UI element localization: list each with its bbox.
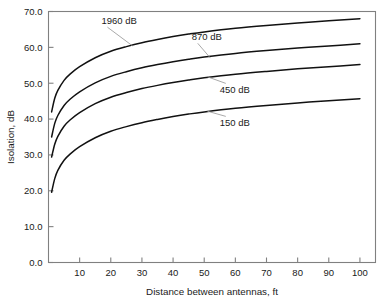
y-tick-label: 10.0: [24, 221, 43, 232]
series-label-150-db: 150 dB: [220, 117, 250, 128]
chart-canvas: 0.010.020.030.040.050.060.070.0102030405…: [0, 0, 387, 307]
x-tick-label: 80: [292, 267, 303, 278]
annotation-leader-line: [107, 27, 132, 46]
series-curve-450-db: [52, 65, 360, 158]
x-tick-label: 70: [261, 267, 272, 278]
x-tick-label: 50: [199, 267, 210, 278]
annotations-group: 1960 dB870 dB450 dB150 dB: [101, 15, 249, 128]
y-tick-label: 40.0: [24, 113, 43, 124]
x-tick-label: 30: [137, 267, 148, 278]
y-tick-label: 60.0: [24, 42, 43, 53]
series-curve-870-db: [52, 44, 360, 137]
series-label-870-db: 870 dB: [192, 31, 222, 42]
y-axis-title: Isolation, dB: [5, 110, 16, 164]
y-tick-label: 30.0: [24, 149, 43, 160]
y-tick-label: 0.0: [29, 257, 42, 268]
y-tick-label: 50.0: [24, 78, 43, 89]
y-tick-label: 20.0: [24, 185, 43, 196]
x-tick-label: 90: [323, 267, 334, 278]
x-axis-title: Distance between antennas, ft: [146, 286, 278, 297]
isolation-vs-distance-chart: 0.010.020.030.040.050.060.070.0102030405…: [0, 0, 387, 307]
series-group: [52, 19, 360, 193]
annotation-leader-line: [207, 77, 225, 84]
x-tick-label: 10: [74, 267, 85, 278]
annotation-leader-line: [198, 43, 211, 58]
series-label-1960-db: 1960 dB: [101, 15, 136, 26]
annotation-leader-line: [207, 111, 225, 116]
series-curve-150-db: [52, 99, 360, 193]
x-tick-label: 100: [352, 267, 368, 278]
y-axis: 0.010.020.030.040.050.060.070.0: [24, 6, 54, 268]
x-tick-label: 40: [168, 267, 179, 278]
x-tick-label: 20: [105, 267, 116, 278]
x-tick-label: 60: [230, 267, 241, 278]
series-label-450-db: 450 dB: [220, 84, 250, 95]
y-tick-label: 70.0: [24, 6, 43, 17]
x-axis: 102030405060708090100: [74, 258, 368, 278]
